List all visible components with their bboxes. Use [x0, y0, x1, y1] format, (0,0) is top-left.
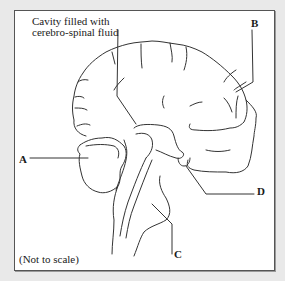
scale-note: (Not to scale)	[19, 254, 79, 265]
cavity-label-line2: cerebro-spinal fluid	[32, 27, 118, 38]
label-a: A	[19, 154, 27, 165]
cerebellum-outline	[78, 137, 126, 192]
c-leader-line	[152, 204, 172, 254]
label-c: C	[174, 249, 182, 260]
label-d: D	[257, 186, 265, 197]
label-b: B	[251, 18, 258, 29]
brain-diagram	[0, 0, 285, 281]
cerebrum-outline	[73, 41, 248, 136]
